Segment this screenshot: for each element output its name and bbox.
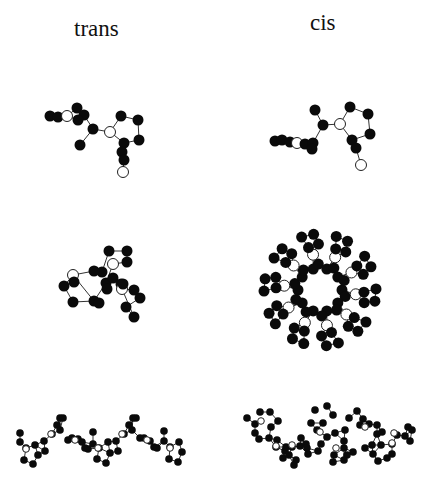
atom-filled <box>330 451 338 459</box>
atom-open <box>333 445 340 452</box>
atom-filled <box>351 143 362 154</box>
atom-filled <box>29 460 37 468</box>
atom-filled <box>266 408 274 416</box>
atom-filled <box>340 456 348 464</box>
atom-filled <box>313 239 324 250</box>
atom-filled <box>34 451 42 459</box>
atom-open <box>389 440 396 447</box>
atom-filled <box>323 433 331 441</box>
atom-filled <box>369 450 377 458</box>
atom-filled <box>318 120 329 131</box>
atom-filled <box>333 337 344 348</box>
atom-filled <box>255 435 263 443</box>
atom-filled <box>341 426 349 434</box>
atom-open <box>362 424 369 431</box>
atom-filled <box>349 448 357 456</box>
atom-filled <box>88 124 99 135</box>
atom-filled <box>271 282 282 293</box>
atom-open <box>105 127 116 138</box>
atom-filled <box>311 406 319 414</box>
atom-filled <box>365 129 376 140</box>
atom-filled <box>122 257 133 268</box>
atom-filled <box>331 231 342 242</box>
molecular-structures-figure <box>0 0 435 484</box>
atom-filled <box>303 444 311 452</box>
atom-filled <box>321 340 332 351</box>
atom-filled <box>31 441 39 449</box>
atom-open <box>48 431 55 438</box>
atom-filled <box>160 437 168 445</box>
atom-filled <box>330 243 341 254</box>
atom-filled <box>360 317 371 328</box>
atom-filled <box>314 447 322 455</box>
atom-filled <box>16 438 24 446</box>
cis-chain-structure <box>243 402 416 469</box>
atom-filled <box>178 448 186 456</box>
atom-filled <box>116 111 127 122</box>
atom-filled <box>308 229 319 240</box>
atom-filled <box>340 444 348 452</box>
atom-filled <box>260 273 271 284</box>
atom-filled <box>59 414 67 422</box>
atom-open <box>273 443 280 450</box>
atom-open <box>62 111 73 122</box>
atom-filled <box>345 414 353 422</box>
atom-filled <box>373 421 381 429</box>
atom-open <box>289 442 296 449</box>
atom-open <box>95 445 102 452</box>
atom-open <box>108 259 119 270</box>
atom-filled <box>369 296 380 307</box>
cis-monomer-structure <box>270 102 376 171</box>
atom-filled <box>118 279 129 290</box>
atom-filled <box>68 297 79 308</box>
atom-filled <box>377 441 385 449</box>
atom-open <box>167 445 174 452</box>
atom-filled <box>297 434 305 442</box>
atom-filled <box>358 269 369 280</box>
atom-filled <box>323 402 331 410</box>
atom-filled <box>243 414 251 422</box>
atom-filled <box>174 458 182 466</box>
atom-filled <box>340 246 351 257</box>
atom-filled <box>359 297 370 308</box>
atom-filled <box>307 144 318 155</box>
atom-filled <box>256 408 264 416</box>
atom-filled <box>342 236 353 247</box>
atom-filled <box>73 115 84 126</box>
atom-filled <box>122 246 133 257</box>
atom-filled <box>329 458 337 466</box>
atom-filled <box>383 454 391 462</box>
atom-filled <box>259 286 270 297</box>
atom-filled <box>56 426 64 434</box>
atom-filled <box>319 419 327 427</box>
atom-filled <box>104 438 112 446</box>
atom-filled <box>94 298 105 309</box>
atom-open <box>335 119 346 130</box>
atom-open <box>72 437 79 444</box>
atom-filled <box>102 284 113 295</box>
atom-filled <box>106 449 114 457</box>
atom-filled <box>265 434 273 442</box>
atom-filled <box>89 266 100 277</box>
atom-filled <box>270 272 281 283</box>
trans-helix-structure <box>59 246 146 323</box>
atom-filled <box>307 419 315 427</box>
atom-filled <box>299 326 310 337</box>
atom-filled <box>316 330 327 341</box>
atom-filled <box>270 318 281 329</box>
atom-open <box>258 418 265 425</box>
atom-filled <box>378 428 386 436</box>
atom-filled <box>317 440 325 448</box>
atom-filled <box>165 455 173 463</box>
atom-filled <box>160 427 168 435</box>
atom-filled <box>340 437 348 445</box>
atom-filled <box>175 438 183 446</box>
atom-filled <box>331 429 339 437</box>
atom-filled <box>370 283 381 294</box>
atom-filled <box>290 461 298 469</box>
atom-filled <box>353 407 361 415</box>
atom-filled <box>303 242 314 253</box>
atom-filled <box>310 105 321 116</box>
atom-filled <box>16 429 24 437</box>
atom-filled <box>368 441 376 449</box>
